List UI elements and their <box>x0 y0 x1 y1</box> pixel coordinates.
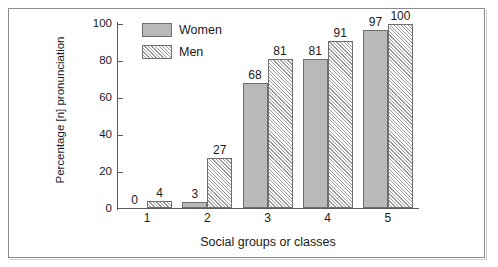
bar-value-women-group3: 68 <box>240 69 270 81</box>
legend-item-men: Men <box>142 42 252 61</box>
x-tick-label-3: 3 <box>253 211 283 225</box>
bar-women-group5 <box>363 30 388 208</box>
y-axis-title: Percentage [n] pronunciation <box>54 22 66 198</box>
legend-label-men: Men <box>179 45 203 59</box>
y-tick-label-20: 20 <box>76 166 112 177</box>
bar-men-group1 <box>147 201 172 208</box>
bar-value-men-group4: 91 <box>325 27 355 39</box>
x-tick-label-4: 4 <box>313 211 343 225</box>
bar-women-group4 <box>303 59 328 208</box>
figure: 100 80 60 40 20 0 Percentage [n] pronunc… <box>0 0 498 267</box>
bar-men-group2 <box>207 158 232 208</box>
bar-value-men-group3: 81 <box>265 45 295 57</box>
bar-women-group3 <box>243 83 268 208</box>
bar-women-group2 <box>182 202 207 208</box>
y-tick-label-100: 100 <box>76 18 112 29</box>
legend: Women Men <box>142 20 252 64</box>
bar-value-women-group4: 81 <box>300 45 330 57</box>
y-tick-label-0: 0 <box>76 203 112 214</box>
x-tick-label-2: 2 <box>192 211 222 225</box>
legend-item-women: Women <box>142 20 252 39</box>
x-tick-label-1: 1 <box>132 211 162 225</box>
bar-value-men-group5: 100 <box>385 10 415 22</box>
y-tick-label-60: 60 <box>76 92 112 103</box>
bar-value-women-group2: 3 <box>180 188 210 200</box>
bar-value-men-group1: 4 <box>145 187 175 199</box>
bar-men-group4 <box>328 41 353 208</box>
x-axis-title: Social groups or classes <box>117 235 419 249</box>
legend-swatch-men-icon <box>142 45 172 59</box>
legend-swatch-women-icon <box>142 23 172 37</box>
x-tick-label-5: 5 <box>373 211 403 225</box>
y-tick-label-80: 80 <box>76 55 112 66</box>
y-tick-label-40: 40 <box>76 129 112 140</box>
legend-label-women: Women <box>179 23 222 37</box>
bar-men-group3 <box>268 59 293 208</box>
bar-value-men-group2: 27 <box>205 144 235 156</box>
bar-men-group5 <box>388 24 413 208</box>
x-axis-line <box>117 208 419 209</box>
